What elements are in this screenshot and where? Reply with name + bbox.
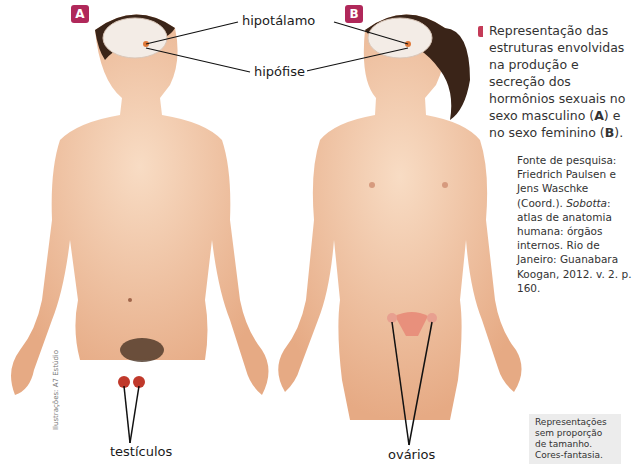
illustration-credit: Ilustrações: A7 Estúdio — [52, 350, 60, 430]
label-hipotalamo: hipotálamo — [240, 13, 317, 28]
female-figure — [278, 14, 521, 445]
label-testiculos: testículos — [108, 444, 174, 459]
figure-badge-a: A — [71, 5, 89, 23]
label-hipofise: hipófise — [252, 64, 307, 79]
source-citation: Fonte de pesquisa: Friedrich Paulsen e J… — [517, 153, 632, 295]
disclaimer-note: Representações sem proporção de tamanho.… — [529, 414, 621, 464]
male-figure — [11, 14, 269, 443]
label-ovarios: ovários — [386, 447, 437, 462]
figure-badge-b: B — [345, 5, 363, 23]
figure-caption: Representação das estruturas envolvidas … — [489, 22, 629, 141]
caption-marker — [478, 26, 483, 37]
